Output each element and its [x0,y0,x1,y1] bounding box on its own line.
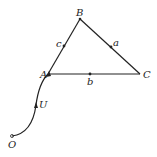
label-edge-b: b [87,76,93,87]
point-b [79,18,82,21]
label-edge-c: c [56,38,62,49]
edge-a-marker [110,46,113,49]
triangle-diagram: B A C O c a b U [0,0,157,157]
label-curve-u: U [39,99,48,110]
edge-c-marker [63,45,66,48]
arrow-u-icon [34,102,38,108]
diagram-svg: B A C O c a b U [0,0,157,157]
label-c-point: C [143,69,151,80]
label-o: O [8,139,16,150]
label-a-point: A [39,69,47,80]
label-edge-a: a [113,37,119,48]
edge-b-marker [89,73,92,76]
label-b: B [75,7,83,18]
